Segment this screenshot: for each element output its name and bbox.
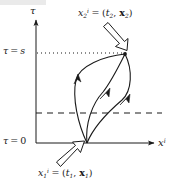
hollow-arrow-to-x2 bbox=[104, 23, 129, 51]
x2-relation: = bbox=[92, 7, 100, 18]
tau-0-symbol: τ bbox=[3, 135, 8, 146]
hollow-arrow-to-x1 bbox=[57, 141, 85, 167]
tau-s-value: s bbox=[20, 45, 25, 56]
tick-label-tau-0: τ=0 bbox=[3, 136, 26, 146]
tau-0-relation: = bbox=[10, 135, 18, 146]
worldline-right-arrowhead bbox=[120, 94, 130, 105]
worldline-left bbox=[75, 54, 125, 143]
x2-space-subscript: 2 bbox=[125, 13, 129, 19]
x1-paren-close: ) bbox=[89, 167, 93, 178]
worldline-right bbox=[87, 54, 130, 143]
endpoint-dot-x2 bbox=[123, 52, 127, 56]
x-axis-superscript: i bbox=[164, 137, 166, 144]
tick-label-tau-s: τ=s bbox=[3, 46, 25, 56]
tau-axis-label: τ bbox=[30, 6, 36, 16]
point-label-x2: x2i=(t2, x2) bbox=[78, 8, 132, 18]
x2-paren-close: ) bbox=[129, 7, 133, 18]
x2-time-subscript: 2 bbox=[110, 13, 114, 19]
x-axis-symbol: x bbox=[158, 137, 164, 148]
worldline-middle bbox=[87, 54, 125, 143]
x1-time-subscript: 1 bbox=[70, 173, 74, 179]
point-label-x1: x1i=(t1, x1) bbox=[38, 168, 92, 178]
tau-0-value: 0 bbox=[20, 135, 26, 146]
spacetime-worldlines-figure: τ xi τ=s τ=0 x2i=(t2, x2) x1i=(t1, x1) bbox=[0, 0, 174, 188]
x1-relation: = bbox=[52, 167, 60, 178]
worldline-left-arrowhead bbox=[74, 74, 81, 84]
x-axis-label: xi bbox=[158, 138, 166, 148]
figure-canvas bbox=[0, 0, 174, 188]
tau-s-relation: = bbox=[10, 45, 18, 56]
x1-superscript: i bbox=[47, 168, 49, 174]
x1-space-subscript: 1 bbox=[85, 173, 89, 179]
tau-s-symbol: τ bbox=[3, 45, 8, 56]
tau-axis-symbol: τ bbox=[30, 5, 36, 16]
x1-time-symbol: t bbox=[66, 167, 70, 178]
x2-time-symbol: t bbox=[106, 7, 110, 18]
x2-superscript: i bbox=[87, 8, 89, 14]
